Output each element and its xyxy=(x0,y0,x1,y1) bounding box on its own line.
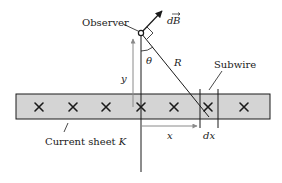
dx-label: dx xyxy=(203,130,215,141)
db-field-vector-arrow xyxy=(141,11,162,33)
observer-point xyxy=(138,30,143,35)
right-angle-marker xyxy=(147,27,153,39)
current-sheet-label-text: Current sheet xyxy=(45,136,119,147)
current-sheet xyxy=(16,94,270,119)
subwire-label: Subwire xyxy=(214,59,256,70)
y-label: y xyxy=(120,73,127,84)
theta-label: θ xyxy=(146,55,152,66)
current-sheet-label: Current sheet K xyxy=(45,136,127,147)
current-sheet-symbol: K xyxy=(118,136,127,147)
db-label-b: B xyxy=(172,15,180,26)
theta-angle-arc xyxy=(141,47,153,51)
x-label: x xyxy=(167,130,173,141)
observer-label: Observer xyxy=(82,17,129,28)
subwire-leader-line xyxy=(209,71,222,90)
db-vector-label: d B xyxy=(167,13,180,27)
r-label: R xyxy=(173,57,182,68)
current-sheet-diagram: Observer d B θ R Subwire y x dx Current … xyxy=(0,0,282,183)
current-sheet-leader-line xyxy=(64,123,68,132)
